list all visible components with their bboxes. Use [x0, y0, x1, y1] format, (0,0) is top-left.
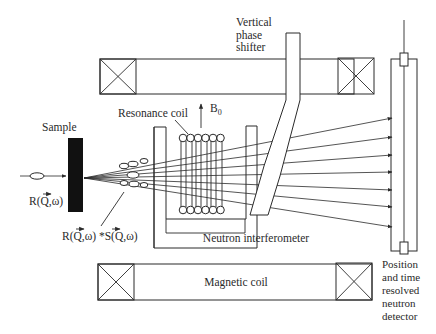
- svg-text:R(Q,ω): R(Q,ω): [29, 195, 63, 208]
- magnetic-coil-label: Magnetic coil: [204, 276, 268, 289]
- detector-bottom-connector: [400, 242, 408, 254]
- coil-cross-section-icon: [100, 59, 136, 94]
- svg-text:R(Q,ω) *S(Q,ω): R(Q,ω) *S(Q,ω): [62, 230, 138, 243]
- sample-block: [68, 138, 83, 212]
- neutron-spin-echo-interferometer-diagram: Magnetic coil Neutron interferometer: [0, 0, 436, 334]
- resonance-coil-bottom-windings: [179, 206, 224, 214]
- resonance-coil-wires: [181, 141, 222, 207]
- vertical-phase-shifter-label: Verticalphaseshifter: [236, 16, 272, 53]
- b0-label: B0: [210, 102, 222, 117]
- bottom-magnetic-coil: Magnetic coil: [98, 263, 372, 300]
- resonance-coil-top-windings: [179, 134, 224, 142]
- coil-cross-section-icon: [98, 264, 134, 300]
- resonance-coil-leader-line: [175, 120, 188, 134]
- resonance-coil-label: Resonance coil: [118, 107, 188, 119]
- scattered-function-leader-line: [101, 192, 124, 226]
- top-magnetic-coil: [100, 58, 374, 94]
- coil-cross-section-icon: [338, 58, 374, 94]
- incident-resolution-function-label: R(Q,ω): [29, 194, 63, 208]
- coil-cross-section-icon: [336, 263, 372, 300]
- position-time-resolved-detector: Positionand timeresolvedneutrondetector: [382, 20, 420, 322]
- sample-label: Sample: [42, 121, 77, 134]
- incident-wave-packet: [30, 173, 44, 179]
- neutron-interferometer-label: Neutron interferometer: [203, 232, 309, 244]
- b0-field-indicator: B0: [201, 102, 222, 128]
- incident-beam: [20, 173, 66, 179]
- detector-label: Positionand timeresolvedneutrondetector: [382, 258, 420, 322]
- detector-top-connector: [400, 53, 408, 66]
